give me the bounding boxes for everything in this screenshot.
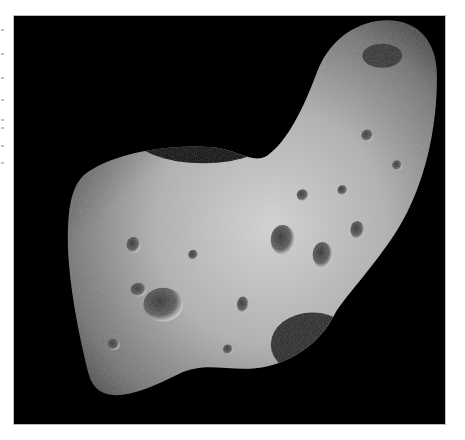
cropped-text-fragments — [0, 15, 10, 165]
asteroid-photo — [13, 15, 446, 425]
asteroid-illustration — [14, 16, 445, 424]
